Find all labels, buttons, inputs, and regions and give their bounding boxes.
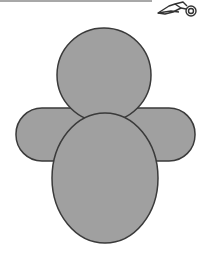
paper-doll-figure [0, 0, 206, 253]
head [57, 28, 151, 122]
body [52, 113, 158, 243]
